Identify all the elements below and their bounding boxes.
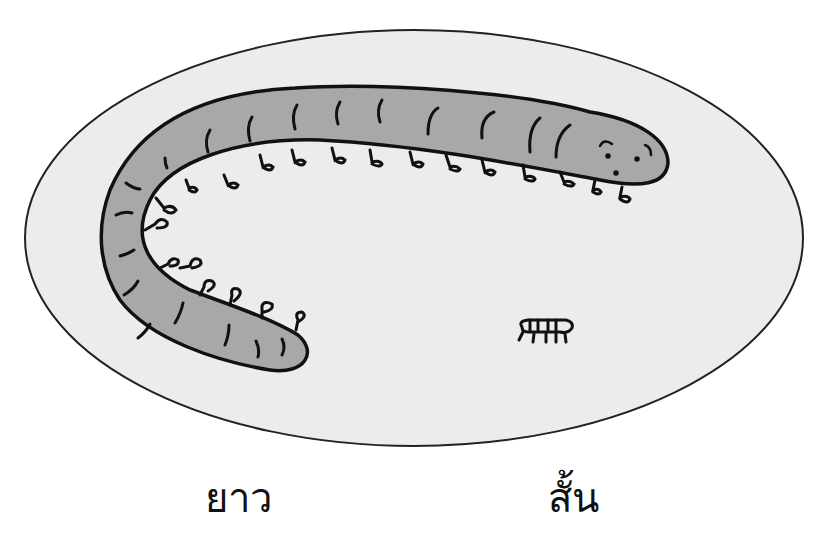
label-short: สั้น — [548, 478, 599, 518]
illustration-canvas: ยาว สั้น — [0, 0, 817, 533]
label-long: ยาว — [205, 478, 272, 518]
scene-drawing — [0, 0, 817, 533]
